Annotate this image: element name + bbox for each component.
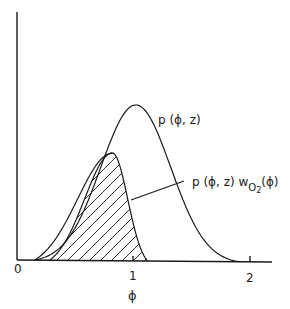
hatch-line (184, 145, 290, 265)
weighted-label-main: p (ϕ, z) w (192, 175, 248, 189)
hatch-line (250, 145, 290, 265)
hatch-line (96, 145, 216, 265)
hatch-line (239, 145, 290, 265)
hatched-region (0, 145, 290, 265)
hatch-line (206, 145, 290, 265)
hatch-line (0, 145, 84, 265)
hatch-line (129, 145, 249, 265)
x-tick-0: 0 (14, 262, 22, 276)
hatch-line (261, 145, 290, 265)
hatch-line (228, 145, 290, 265)
hatch-line (118, 145, 238, 265)
hatch-line (173, 145, 290, 265)
hatch-line (30, 145, 150, 265)
hatch-line (52, 145, 172, 265)
hatch-line (8, 145, 128, 265)
x-tick-2: 2 (246, 271, 254, 285)
hatch-line (217, 145, 290, 265)
weighted-curve-label: p (ϕ, z) wO2(ϕ) (192, 175, 279, 195)
plot-area: 0 1 2 ϕ p (ϕ, z) p (ϕ, z) wO2(ϕ) (0, 0, 290, 309)
x-axis-label: ϕ (128, 288, 137, 303)
hatch-line (74, 145, 194, 265)
hatch-line (63, 145, 183, 265)
hatch-line (85, 145, 205, 265)
hatch-line (162, 145, 282, 265)
weighted-label-sub-o: O (248, 182, 256, 193)
weighted-label-leader (131, 181, 184, 200)
weighted-label-suffix: (ϕ) (261, 175, 278, 189)
pdf-curve-label: p (ϕ, z) (158, 113, 201, 127)
hatch-line (107, 145, 227, 265)
x-tick-1: 1 (129, 269, 137, 283)
hatch-line (19, 145, 139, 265)
figure: 0 1 2 ϕ p (ϕ, z) p (ϕ, z) wO2(ϕ) (0, 0, 290, 309)
hatch-line (140, 145, 260, 265)
